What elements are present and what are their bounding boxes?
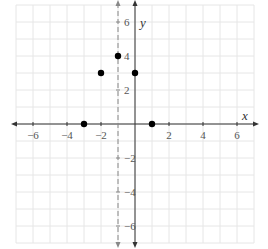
x-tick-label: 6 — [234, 129, 240, 141]
scatter-plot-canvas: −6−4−2246642−2−4−6 x y — [0, 0, 268, 249]
x-tick-label: 4 — [200, 129, 206, 141]
data-point — [81, 121, 87, 127]
x-axis-right-arrow-icon — [253, 122, 259, 127]
data-point — [149, 121, 155, 127]
axes — [11, 0, 259, 248]
x-tick-label: −6 — [27, 129, 39, 141]
dashed-line-up-arrow-icon — [116, 0, 121, 6]
x-tick-label: −2 — [95, 129, 107, 141]
data-point — [98, 70, 104, 76]
x-axis-label: x — [241, 108, 248, 123]
coordinate-plane: −6−4−2246642−2−4−6 x y — [0, 0, 268, 249]
y-tick-label: −6 — [124, 220, 136, 232]
y-tick-label: −4 — [124, 186, 136, 198]
y-tick-label: 4 — [124, 50, 130, 62]
y-axis-label: y — [138, 15, 146, 30]
x-tick-label: 2 — [166, 129, 172, 141]
y-axis-down-arrow-icon — [133, 242, 138, 248]
y-tick-label: −2 — [124, 152, 136, 164]
data-point — [132, 70, 138, 76]
y-axis-up-arrow-icon — [133, 0, 138, 6]
dashed-line-down-arrow-icon — [116, 242, 121, 248]
y-tick-label: 6 — [124, 16, 130, 28]
y-tick-label: 2 — [124, 84, 130, 96]
data-point — [115, 53, 121, 59]
x-tick-label: −4 — [61, 129, 73, 141]
x-axis-left-arrow-icon — [11, 122, 17, 127]
